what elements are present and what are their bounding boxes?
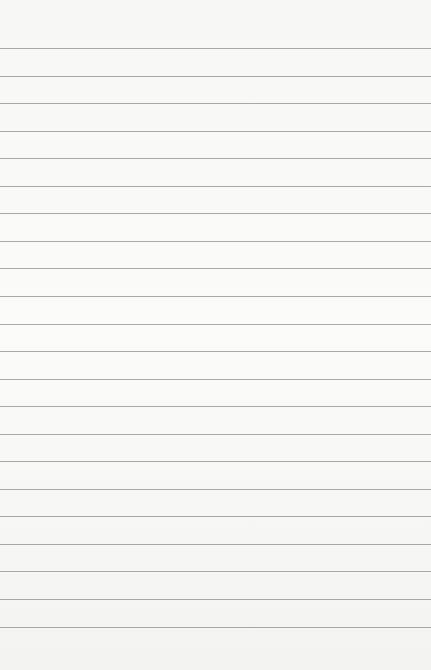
ruled-line [0,516,431,517]
ruled-line [0,544,431,545]
ruled-line [0,241,431,242]
ruled-line [0,599,431,600]
ruled-line [0,571,431,572]
ruled-line [0,48,431,49]
ruled-line [0,406,431,407]
ruled-line [0,131,431,132]
ruled-line [0,434,431,435]
ruled-line [0,324,431,325]
ruled-line [0,213,431,214]
ruled-line [0,379,431,380]
ruled-line [0,186,431,187]
ruled-line [0,268,431,269]
ruled-line [0,627,431,628]
lined-paper [0,0,431,670]
ruled-line [0,103,431,104]
ruled-line [0,489,431,490]
ruled-line [0,76,431,77]
ruled-line [0,296,431,297]
ruled-line [0,461,431,462]
ruled-line [0,351,431,352]
ruled-line [0,158,431,159]
